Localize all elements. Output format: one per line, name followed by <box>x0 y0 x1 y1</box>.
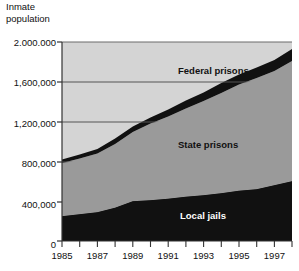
x-tick-label-1993: 1993 <box>193 250 214 261</box>
x-tick-label-1985: 1985 <box>51 250 72 261</box>
x-axis-ticks <box>62 241 292 247</box>
plot-area: Federal prisons State prisons Local jail… <box>0 0 299 271</box>
x-tick-label-1987: 1987 <box>87 250 108 261</box>
x-axis-tick-labels: 1985 1987 1989 1991 1993 1995 1997 <box>0 250 299 268</box>
x-tick-label-1997: 1997 <box>264 250 285 261</box>
y-axis-ticks <box>57 42 62 241</box>
inmate-population-area-chart: Inmate population 2.000.000 1,600,000 1,… <box>0 0 299 271</box>
series-label-state-prisons: State prisons <box>178 139 238 150</box>
x-tick-label-1989: 1989 <box>122 250 143 261</box>
series-label-local-jails: Local jails <box>180 210 226 221</box>
x-tick-label-1995: 1995 <box>228 250 249 261</box>
x-tick-label-1991: 1991 <box>158 250 179 261</box>
series-label-federal-prisons: Federal prisons <box>178 65 249 76</box>
